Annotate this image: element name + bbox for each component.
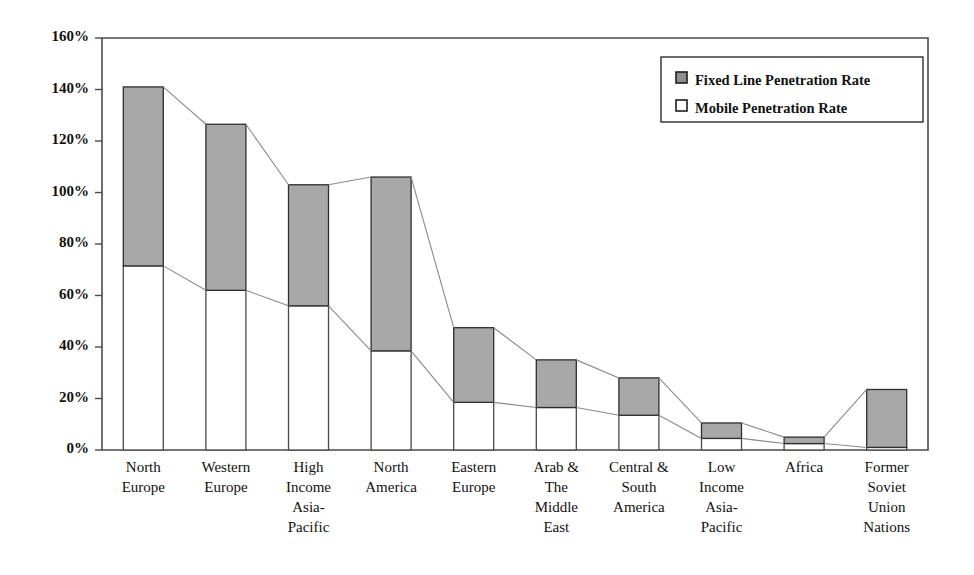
connector-line-total: [329, 177, 372, 185]
bar-segment-mobile: [123, 266, 163, 450]
connector-line-mobile: [329, 306, 372, 351]
connector-line-mobile: [494, 402, 537, 407]
x-axis-tick-label: Central &SouthAmerica: [609, 459, 669, 515]
x-axis-tick-label-line: Former: [865, 459, 909, 475]
x-axis-tick-label-line: Income: [699, 479, 744, 495]
connector-line-mobile: [824, 444, 867, 448]
bar-segment-mobile: [454, 402, 494, 450]
x-axis-tick-label-line: High: [294, 459, 325, 475]
y-axis-tick-label: 100%: [52, 183, 90, 199]
y-axis-tick-label: 140%: [52, 80, 90, 96]
legend-swatch-fixed-line-icon: [676, 72, 687, 83]
x-axis-tick-label: Arab &TheMiddleEast: [534, 459, 580, 535]
bar-segment-fixed-line: [867, 389, 907, 447]
bar-segment-mobile: [784, 444, 824, 450]
legend-label-fixed-line: Fixed Line Penetration Rate: [695, 72, 871, 88]
y-axis-tick-label: 60%: [59, 286, 89, 302]
connector-line-total: [824, 389, 867, 437]
x-axis-tick-label-line: Eastern: [451, 459, 496, 475]
x-axis-tick-label-line: Europe: [452, 479, 496, 495]
x-axis-tick-label-line: Union: [868, 499, 906, 515]
connector-line-total: [742, 423, 785, 437]
x-axis-tick-label-line: Western: [202, 459, 251, 475]
series-connector-lines: [163, 87, 866, 448]
bar-segment-fixed-line: [371, 177, 411, 351]
stacked-bar-chart: 0%20%40%60%80%100%120%140%160% NorthEuro…: [0, 0, 974, 575]
connector-line-mobile: [163, 266, 206, 290]
connector-line-total: [411, 177, 454, 328]
connector-line-mobile: [246, 290, 289, 305]
y-axis-tick-label: 0%: [67, 440, 90, 456]
x-axis-tick-label-line: America: [365, 479, 417, 495]
legend-label-mobile: Mobile Penetration Rate: [695, 100, 848, 116]
connector-line-total: [659, 378, 702, 423]
legend-swatch-mobile-icon: [676, 100, 687, 111]
legend: Fixed Line Penetration Rate Mobile Penet…: [661, 57, 923, 122]
bar-segment-fixed-line: [536, 360, 576, 408]
connector-line-mobile: [742, 438, 785, 443]
y-axis-tick-marks: [95, 38, 102, 450]
connector-line-total: [576, 360, 619, 378]
x-axis-tick-label: EasternEurope: [451, 459, 496, 495]
x-axis-tick-label: LowIncomeAsia-Pacific: [699, 459, 744, 535]
connector-line-mobile: [411, 351, 454, 403]
x-axis-tick-label-line: Arab &: [534, 459, 580, 475]
x-axis-tick-label-line: Africa: [785, 459, 824, 475]
bar-segment-mobile: [536, 408, 576, 450]
y-axis-tick-label: 120%: [52, 131, 90, 147]
bar-segment-fixed-line: [123, 87, 163, 266]
y-axis-tick-label: 160%: [52, 28, 90, 44]
connector-line-total: [246, 124, 289, 185]
bar-segment-mobile: [289, 306, 329, 450]
x-axis-tick-label: FormerSovietUnionNations: [863, 459, 910, 535]
connector-line-mobile: [576, 408, 619, 416]
x-axis-tick-label: Africa: [785, 459, 824, 475]
x-axis-tick-label-line: The: [545, 479, 569, 495]
x-axis-tick-label-line: Asia-: [292, 499, 325, 515]
bar-segment-fixed-line: [702, 423, 742, 438]
bar-segment-fixed-line: [619, 378, 659, 415]
x-axis-tick-label-line: Central &: [609, 459, 669, 475]
x-axis-tick-label-line: North: [374, 459, 409, 475]
x-axis-tick-label-line: North: [126, 459, 161, 475]
x-axis-tick-label-line: East: [543, 519, 570, 535]
bar-segment-mobile: [206, 290, 246, 450]
y-axis-tick-labels: 0%20%40%60%80%100%120%140%160%: [52, 28, 90, 456]
x-axis-tick-label-line: Asia-: [705, 499, 738, 515]
y-axis-tick-label: 40%: [59, 337, 89, 353]
x-axis-tick-label: WesternEurope: [202, 459, 251, 495]
x-axis-tick-labels: NorthEuropeWesternEuropeHighIncomeAsia-P…: [122, 459, 911, 535]
connector-line-mobile: [659, 415, 702, 438]
y-axis-tick-label: 20%: [59, 389, 89, 405]
bar-segment-fixed-line: [289, 185, 329, 306]
x-axis-tick-label-line: Middle: [535, 499, 579, 515]
x-axis-tick-label-line: Europe: [204, 479, 248, 495]
bar-segment-fixed-line: [454, 328, 494, 403]
x-axis-tick-label-line: Pacific: [701, 519, 743, 535]
x-axis-tick-label-line: Low: [708, 459, 736, 475]
x-axis-tick-label: NorthEurope: [122, 459, 166, 495]
x-axis-tick-label-line: Income: [286, 479, 331, 495]
x-axis-tick-label-line: South: [621, 479, 657, 495]
x-axis-tick-label-line: America: [613, 499, 665, 515]
y-axis-tick-label: 80%: [59, 234, 89, 250]
connector-line-total: [163, 87, 206, 124]
x-axis-tick-label-line: Soviet: [868, 479, 907, 495]
bar-segment-mobile: [619, 415, 659, 450]
bar-segment-fixed-line: [206, 124, 246, 290]
connector-line-total: [494, 328, 537, 360]
bar-segment-mobile: [371, 351, 411, 450]
x-axis-tick-label: NorthAmerica: [365, 459, 417, 495]
chart-container: 0%20%40%60%80%100%120%140%160% NorthEuro…: [0, 0, 974, 575]
x-axis-tick-label-line: Pacific: [288, 519, 330, 535]
bar-segment-mobile: [702, 438, 742, 450]
bars-layer: [123, 87, 906, 450]
x-axis-tick-label-line: Nations: [863, 519, 910, 535]
bar-segment-fixed-line: [784, 437, 824, 443]
x-axis-tick-label: HighIncomeAsia-Pacific: [286, 459, 331, 535]
x-axis-tick-label-line: Europe: [122, 479, 166, 495]
